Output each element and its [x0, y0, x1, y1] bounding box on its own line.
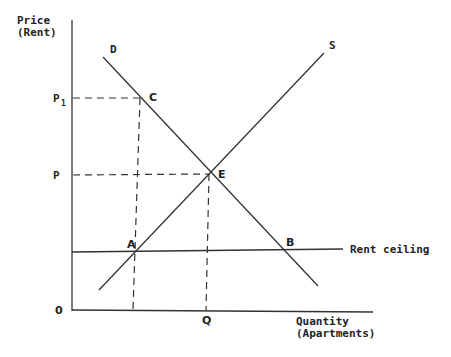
point-b-label: B: [286, 236, 294, 249]
p1-label: P: [53, 92, 60, 105]
p-label: P: [53, 169, 60, 182]
c-to-axis-guide: [133, 98, 140, 310]
origin-label: 0: [55, 304, 63, 317]
supply-label: S: [329, 39, 336, 52]
y-axis-label-line2: (Rent): [17, 26, 57, 39]
q-guide: [206, 174, 209, 311]
q-label: Q: [202, 314, 211, 327]
point-a-label: A: [127, 238, 136, 251]
p1-subscript: 1: [61, 99, 66, 108]
point-e-label: E: [218, 168, 226, 181]
demand-label: D: [110, 43, 117, 56]
rent-ceiling-label: Rent ceiling: [350, 243, 429, 256]
point-c-label: C: [149, 91, 157, 104]
p-guide: [73, 174, 209, 175]
x-axis: [72, 310, 373, 312]
supply-demand-diagram: Price (Rent) Quantity (Apartments) 0 P 1…: [0, 0, 451, 357]
x-axis-label-line2: (Apartments): [296, 327, 375, 340]
